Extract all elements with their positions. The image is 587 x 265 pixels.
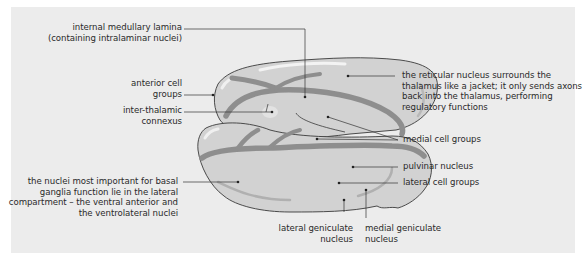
label-internal-medullary-lamina: internal medullary lamina (containing in… <box>48 22 182 43</box>
lower-thalamus-lobe <box>198 123 432 212</box>
label-lateral-geniculate-nucleus: lateral geniculate nucleus <box>279 223 353 244</box>
label-medial-cell-groups: medial cell groups <box>403 134 481 145</box>
label-pulvinar-nucleus: pulvinar nucleus <box>403 161 473 172</box>
label-reticular-nucleus: the reticular nucleus surrounds the thal… <box>402 70 582 112</box>
label-basal-ganglia-nuclei: the nuclei most important for basal gang… <box>9 176 178 218</box>
label-inter-thalamic-connexus: inter-thalamic connexus <box>123 105 182 126</box>
label-anterior-cell-groups: anterior cell groups <box>131 78 182 99</box>
label-lateral-cell-groups: lateral cell groups <box>403 177 479 188</box>
label-medial-geniculate-nucleus: medial geniculate nucleus <box>365 223 441 244</box>
